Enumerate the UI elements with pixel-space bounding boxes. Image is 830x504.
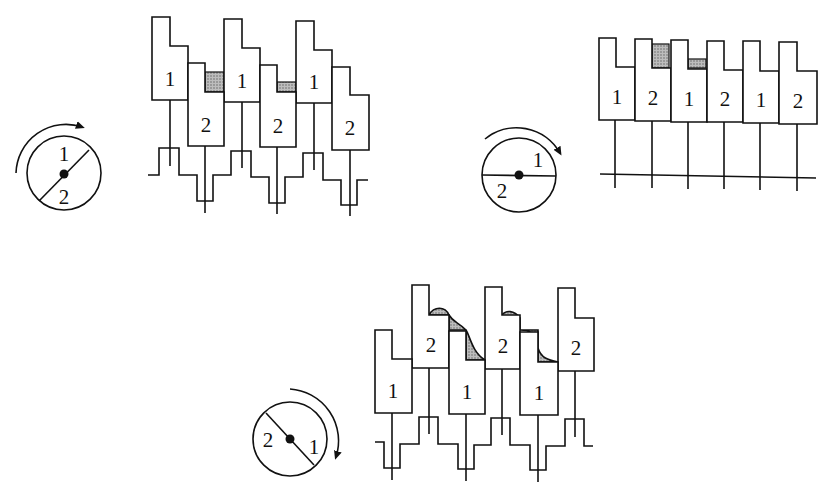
svg-text:2: 2 <box>426 333 437 357</box>
gas-volume <box>652 44 669 68</box>
piston-2: 2 <box>412 285 449 434</box>
svg-text:2: 2 <box>273 114 284 138</box>
svg-text:2: 2 <box>201 113 212 137</box>
crank-label-2: 2 <box>263 428 274 452</box>
crank-disc-b: 1 2 <box>482 128 560 212</box>
piston-2: 2 <box>707 41 743 189</box>
crank-pivot-icon <box>286 435 295 444</box>
svg-text:1: 1 <box>534 381 545 405</box>
crank-label-2: 2 <box>497 179 508 203</box>
rotation-arrow-icon <box>16 124 82 173</box>
svg-text:2: 2 <box>571 336 582 360</box>
piston-2: 2 <box>485 287 520 435</box>
piston-2: 2 <box>558 288 594 437</box>
gas-volume <box>688 59 706 68</box>
svg-text:1: 1 <box>612 85 623 109</box>
crankshaft <box>375 417 593 470</box>
piston-1: 1 <box>152 17 188 166</box>
panel-b: 1 2 1 2 1 2 1 <box>482 38 817 212</box>
crank-label-2: 2 <box>59 185 70 209</box>
svg-text:1: 1 <box>309 70 320 94</box>
piston-1: 1 <box>224 19 260 168</box>
panel-c: 2 1 2 2 2 1 <box>253 285 594 482</box>
piston-1: 1 <box>743 41 779 190</box>
svg-text:2: 2 <box>720 87 731 111</box>
piston-2: 2 <box>332 67 369 216</box>
svg-text:1: 1 <box>684 87 695 111</box>
crank-disc-c: 2 1 <box>253 389 339 476</box>
gas-volume <box>205 72 224 92</box>
crank-label-1: 1 <box>533 148 544 172</box>
piston-1: 1 <box>375 330 412 480</box>
svg-text:1: 1 <box>462 380 473 404</box>
svg-text:1: 1 <box>756 88 767 112</box>
svg-text:2: 2 <box>648 86 659 110</box>
crankshaft <box>148 148 368 205</box>
svg-text:1: 1 <box>165 67 176 91</box>
crank-label-1: 1 <box>59 142 70 166</box>
svg-text:2: 2 <box>793 89 804 113</box>
piston-1: 1 <box>296 21 332 170</box>
svg-text:2: 2 <box>498 334 509 358</box>
gas-volume <box>277 82 296 92</box>
rotation-arrow-icon <box>485 128 560 153</box>
svg-text:1: 1 <box>388 379 399 403</box>
crank-pivot-icon <box>60 170 69 179</box>
crank-label-1: 1 <box>309 435 320 459</box>
panel-a: 1 2 1 1 1 2 <box>16 17 369 216</box>
crank-pivot-icon <box>515 171 524 180</box>
mechanism-diagram: 1 2 1 1 1 2 <box>0 0 830 504</box>
svg-text:1: 1 <box>237 69 248 93</box>
piston-1: 1 <box>599 38 635 188</box>
svg-text:2: 2 <box>345 116 356 140</box>
piston-2: 2 <box>779 42 817 191</box>
crank-disc-a: 1 2 <box>16 124 101 210</box>
crankshaft <box>600 174 816 178</box>
